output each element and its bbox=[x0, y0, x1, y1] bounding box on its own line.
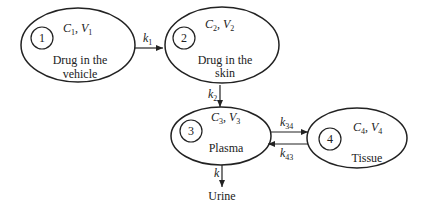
edge-elimination-k: k Urine bbox=[208, 165, 235, 203]
compartment-number: 4 bbox=[327, 132, 333, 146]
rate-label-k: k bbox=[214, 166, 220, 180]
compartment-label-line2: vehicle bbox=[63, 67, 98, 81]
rate-label-k43: k43 bbox=[280, 146, 293, 162]
compartment-vars: C4, V4 bbox=[353, 120, 382, 136]
compartment-1-drug-in-vehicle: 1 C1, V1 Drug in the vehicle bbox=[21, 8, 135, 82]
compartment-number: 1 bbox=[39, 31, 45, 45]
edge-k2: k2 bbox=[208, 85, 220, 107]
compartment-label-line1: Tissue bbox=[352, 151, 383, 165]
compartment-vars: C1, V1 bbox=[63, 21, 92, 37]
compartment-label-line2: skin bbox=[215, 66, 235, 80]
compartment-4-tissue: 4 C4, V4 Tissue bbox=[307, 108, 407, 168]
sink-label-urine: Urine bbox=[208, 189, 235, 203]
compartment-number: 2 bbox=[181, 31, 187, 45]
compartment-diagram: 1 C1, V1 Drug in the vehicle k1 2 C2, V2… bbox=[0, 0, 427, 205]
compartment-vars: C3, V3 bbox=[211, 110, 240, 126]
compartment-vars: C2, V2 bbox=[205, 17, 234, 33]
compartment-2-drug-in-skin: 2 C2, V2 Drug in the skin bbox=[165, 7, 279, 83]
compartment-number: 3 bbox=[188, 124, 194, 138]
rate-label-k34: k34 bbox=[280, 115, 293, 131]
compartment-label-line1: Drug in the bbox=[198, 53, 253, 67]
rate-label-k2: k2 bbox=[208, 87, 217, 103]
compartment-label-line1: Drug in the bbox=[53, 53, 108, 67]
edge-k1: k1 bbox=[135, 31, 163, 48]
rate-label-k1: k1 bbox=[143, 31, 152, 47]
edge-k43: k43 bbox=[268, 144, 308, 162]
edge-k34: k34 bbox=[270, 115, 308, 132]
compartment-label-line1: Plasma bbox=[209, 141, 244, 155]
compartment-3-plasma: 3 C3, V3 Plasma bbox=[171, 107, 271, 165]
